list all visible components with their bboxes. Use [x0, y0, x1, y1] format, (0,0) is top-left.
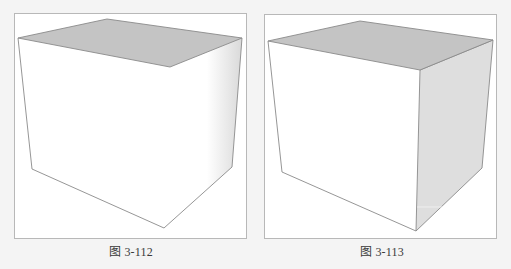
figure-caption-right: 图 3-113 — [322, 242, 442, 260]
cube-right-front-face — [268, 41, 420, 231]
cube-illustrations — [0, 0, 511, 269]
cube-right-side-face — [416, 40, 493, 231]
cube-left — [18, 19, 242, 228]
cube-left-front-face — [18, 38, 170, 228]
figure-caption-left: 图 3-112 — [71, 242, 191, 260]
cube-right — [268, 21, 493, 231]
cube-left-side-face — [164, 38, 242, 228]
